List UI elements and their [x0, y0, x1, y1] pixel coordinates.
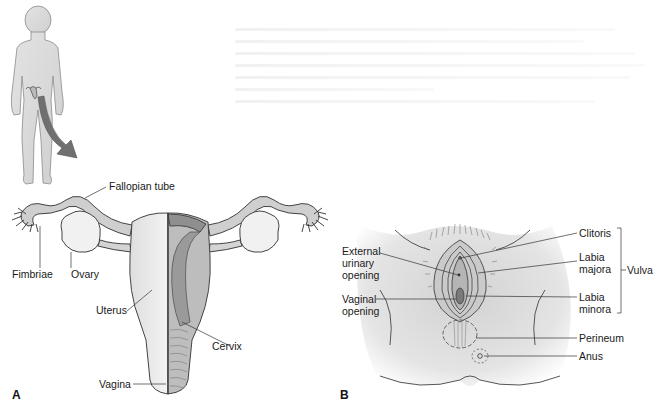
label-vaginal-opening: Vaginal opening: [342, 293, 387, 317]
label-anus: Anus: [579, 350, 603, 362]
label-ovary: Ovary: [71, 268, 99, 280]
ovary-right: [240, 211, 279, 252]
ovary-left: [61, 211, 100, 252]
anatomy-artwork: [0, 0, 657, 407]
label-vagina: Vagina: [99, 378, 131, 390]
label-uterus: Uterus: [96, 304, 127, 316]
urinary-opening-shape: [458, 274, 461, 277]
label-vulva: Vulva: [627, 264, 653, 276]
label-clitoris: Clitoris: [579, 227, 611, 239]
label-labia-majora: Labia majora: [579, 251, 619, 275]
uterus-diagram: [12, 196, 328, 394]
label-labia-minora: Labia minora: [579, 291, 619, 315]
vulva-diagram: [357, 224, 571, 386]
label-fimbriae: Fimbriae: [12, 268, 53, 280]
label-fallopian-tube: Fallopian tube: [109, 180, 175, 192]
body-silhouette: [11, 6, 63, 184]
label-cervix: Cervix: [212, 340, 242, 352]
label-external-urinary-opening: External urinary opening: [342, 245, 387, 281]
panel-letter-a: A: [12, 388, 21, 402]
label-perineum: Perineum: [579, 332, 624, 344]
panel-letter-b: B: [340, 388, 349, 402]
vaginal-opening-shape: [456, 288, 464, 304]
